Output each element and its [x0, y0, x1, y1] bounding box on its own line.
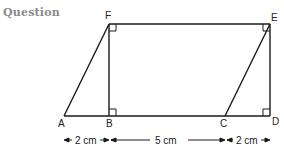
geometry-figure: F E A B C D 2 cm 5 cm 2 cm [0, 0, 284, 149]
right-angle-marker-f [109, 24, 116, 31]
segment-ce [225, 24, 270, 116]
dimension-label-cd: 2 cm [236, 135, 258, 146]
arrow-right-icon [265, 138, 270, 142]
dimension-label-bc: 5 cm [155, 135, 177, 146]
vertex-label-e: E [271, 12, 278, 23]
vertex-label-b: B [106, 118, 113, 129]
vertex-label-d: D [272, 116, 279, 127]
arrow-left-icon [111, 138, 116, 142]
right-angle-marker-b [109, 109, 116, 116]
vertex-label-c: C [220, 118, 227, 129]
vertex-label-f: F [105, 10, 111, 21]
arrow-left-icon [227, 138, 232, 142]
right-angle-marker-d [263, 109, 270, 116]
arrow-right-icon [220, 138, 225, 142]
arrow-left-icon [64, 138, 69, 142]
dimension-label-ab: 2 cm [75, 135, 97, 146]
segment-af [64, 24, 109, 116]
vertex-label-a: A [58, 118, 65, 129]
arrow-right-icon [104, 138, 109, 142]
